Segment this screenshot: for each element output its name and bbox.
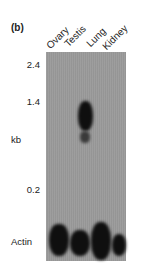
size-marker-2-4: 2.4 — [27, 59, 40, 70]
actin-band-ovary — [49, 224, 69, 256]
axis-unit-label: kb — [11, 134, 21, 145]
blot-gel — [46, 52, 126, 261]
actin-band-kidney — [112, 234, 126, 256]
actin-band-testis — [70, 230, 90, 256]
actin-label: Actin — [11, 236, 32, 247]
testis-band — [78, 101, 93, 131]
size-marker-0-2: 0.2 — [27, 184, 40, 195]
actin-band-lung — [91, 222, 111, 260]
lane-label-kidney: Kidney — [100, 23, 129, 52]
panel-label: (b) — [11, 22, 24, 33]
size-marker-1-4: 1.4 — [27, 96, 40, 107]
testis-band-smear — [80, 131, 90, 143]
